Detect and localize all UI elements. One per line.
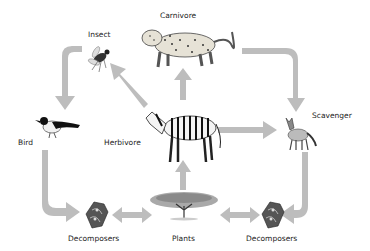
zebra-icon <box>146 112 221 162</box>
bird-icon <box>35 117 80 138</box>
label-decomposers-right: Decomposers <box>246 234 297 243</box>
label-carnivore: Carnivore <box>160 11 196 20</box>
leopard-icon <box>142 30 234 67</box>
plants-icon <box>150 192 218 221</box>
insect-icon <box>88 46 110 72</box>
scavenger-icon <box>286 118 316 150</box>
food-web-illustrations <box>0 0 370 251</box>
label-bird: Bird <box>18 138 33 147</box>
label-herbivore: Herbivore <box>104 138 141 147</box>
decomposers-left-icon <box>86 202 108 228</box>
label-plants: Plants <box>172 234 195 243</box>
decomposers-right-icon <box>262 202 284 228</box>
label-scavenger: Scavenger <box>312 111 352 120</box>
label-decomposers-left: Decomposers <box>68 234 119 243</box>
label-insect: Insect <box>88 30 111 39</box>
